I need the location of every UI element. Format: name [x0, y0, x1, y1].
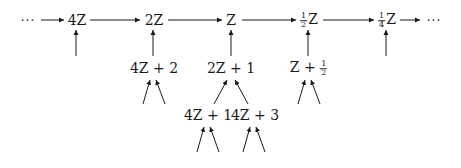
left-ellipsis: ···	[21, 13, 35, 29]
node-Z-plus-half: Z + 12	[290, 59, 328, 77]
arrow-pair-4Z2-left	[143, 80, 150, 104]
fraction-one-half: 12	[300, 12, 307, 29]
node-2Z-plus-1: 2Z + 1	[207, 60, 255, 76]
node-4Z-plus-3: 4Z + 3	[231, 107, 279, 123]
node-Z: Z	[226, 12, 236, 28]
arrow-4Z3-to-2Z1	[235, 80, 248, 104]
right-ellipsis: ···	[427, 13, 441, 29]
arrow-pair-4Z3-right	[256, 127, 265, 152]
arrow-pair-4Z1-right	[210, 127, 219, 152]
arrow-pair-4Z1-left	[197, 127, 204, 152]
node-4Z-plus-2: 4Z + 2	[130, 60, 178, 76]
fraction-one-quarter: 14	[378, 12, 385, 29]
node-quarter-Z: 14Z	[378, 11, 396, 29]
arrow-pair-4Z3-left	[243, 127, 250, 152]
fraction-one-half: 12	[320, 60, 327, 77]
arrow-pair-Zhalf-right	[311, 80, 320, 104]
node-4Z-plus-1: 4Z + 1	[184, 107, 232, 123]
arrow-pair-4Z2-right	[156, 80, 165, 104]
node-4Z: 4Z	[68, 12, 87, 28]
node-2Z: 2Z	[145, 12, 164, 28]
arrow-pair-Zhalf-left	[298, 80, 305, 104]
node-half-Z: 12Z	[300, 11, 318, 29]
arrow-4Z1-to-2Z1	[214, 80, 227, 104]
